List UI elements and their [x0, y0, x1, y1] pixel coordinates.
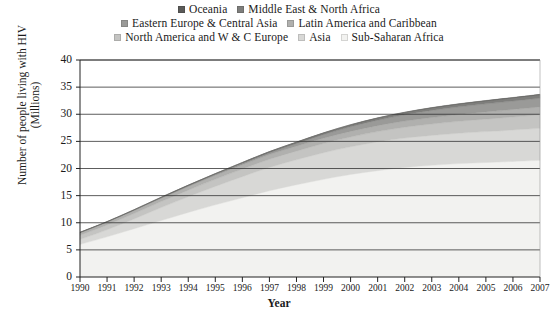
y-tick-label: 25: [46, 135, 72, 147]
y-axis-label-line2: (Millions): [29, 82, 41, 129]
y-tick-label: 0: [46, 271, 72, 283]
x-tick-label: 2000: [336, 283, 366, 293]
plot-area: Number of people living with HIV (Millio…: [0, 0, 558, 312]
y-tick-label: 30: [46, 108, 72, 120]
x-tick-label: 2005: [471, 283, 501, 293]
y-tick-label: 10: [46, 217, 72, 229]
x-tick-label: 1996: [227, 283, 257, 293]
x-tick-label: 1991: [92, 283, 122, 293]
x-tick-label: 1990: [65, 283, 95, 293]
x-tick-label: 1992: [119, 283, 149, 293]
y-tick-label: 40: [46, 54, 72, 66]
y-axis-label: Number of people living with HIV (Millio…: [16, 2, 42, 208]
x-tick-label: 1998: [281, 283, 311, 293]
y-tick-label: 5: [46, 244, 72, 256]
x-tick-label: 1997: [254, 283, 284, 293]
x-tick-label: 2003: [417, 283, 447, 293]
x-tick-label: 2004: [444, 283, 474, 293]
y-tick-label: 15: [46, 190, 72, 202]
x-axis-label: Year: [0, 297, 558, 309]
x-tick-label: 2006: [498, 283, 528, 293]
x-tick-label: 1994: [173, 283, 203, 293]
y-tick-label: 20: [46, 163, 72, 175]
y-axis-label-line1: Number of people living with HIV: [16, 25, 28, 185]
x-tick-label: 2007: [525, 283, 555, 293]
plot-svg: [0, 0, 558, 312]
x-tick-label: 1993: [146, 283, 176, 293]
x-tick-label: 1999: [309, 283, 339, 293]
x-tick-label: 1995: [200, 283, 230, 293]
y-tick-label: 35: [46, 81, 72, 93]
x-tick-label: 2002: [390, 283, 420, 293]
hiv-prevalence-stacked-area-chart: OceaniaMiddle East & North AfricaEastern…: [0, 0, 558, 312]
x-tick-label: 2001: [363, 283, 393, 293]
